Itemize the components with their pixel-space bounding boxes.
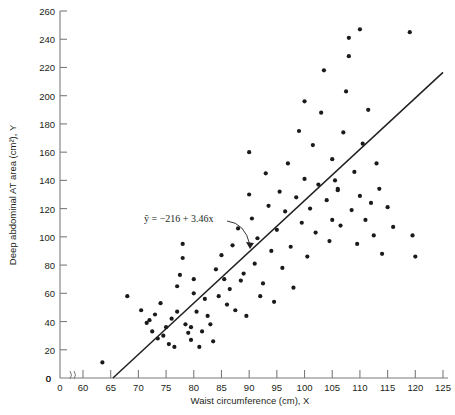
data-point — [413, 255, 417, 259]
data-point — [311, 143, 315, 147]
data-point — [358, 27, 362, 31]
data-point — [410, 233, 414, 237]
data-point — [217, 294, 221, 298]
data-point — [333, 178, 337, 182]
x-tick-label: 95 — [272, 382, 283, 393]
data-point — [172, 345, 176, 349]
data-point — [341, 130, 345, 134]
data-point — [147, 318, 151, 322]
data-point — [253, 262, 257, 266]
data-point — [228, 287, 232, 291]
data-point — [372, 233, 376, 237]
data-point — [247, 192, 251, 196]
data-point — [291, 286, 295, 290]
data-point — [280, 266, 284, 270]
data-point — [286, 161, 290, 165]
data-point — [100, 360, 104, 364]
data-point — [338, 223, 342, 227]
data-point — [355, 242, 359, 246]
data-point — [175, 284, 179, 288]
y-tick-label: 80 — [44, 260, 55, 271]
data-point — [302, 177, 306, 181]
data-point — [153, 312, 157, 316]
data-point — [255, 236, 259, 240]
data-point — [194, 310, 198, 314]
data-point — [322, 68, 326, 72]
data-point — [139, 308, 143, 312]
data-point — [175, 310, 179, 314]
data-point — [325, 198, 329, 202]
data-point — [189, 338, 193, 342]
data-point — [330, 157, 334, 161]
data-point — [150, 329, 154, 333]
data-point — [289, 245, 293, 249]
data-point — [203, 297, 207, 301]
y-tick-label: 200 — [39, 91, 55, 102]
plot-canvas: 020406080100120140160180200220240260 060… — [0, 0, 455, 415]
data-point — [269, 249, 273, 253]
x-tick-label: 115 — [380, 382, 395, 393]
data-point — [347, 36, 351, 40]
data-point — [344, 89, 348, 93]
data-point — [192, 291, 196, 295]
data-point — [222, 277, 226, 281]
data-point — [264, 171, 268, 175]
y-tick-label: 160 — [39, 147, 55, 158]
x-axis-ticks: 06065707580859095100105110115120125 — [57, 370, 451, 393]
data-point — [189, 325, 193, 329]
data-point — [319, 111, 323, 115]
data-point — [197, 345, 201, 349]
y-tick-label: 240 — [39, 34, 55, 45]
data-point — [377, 187, 381, 191]
data-point — [294, 195, 298, 199]
data-point — [336, 187, 340, 191]
y-tick-label: 20 — [44, 345, 55, 356]
data-point — [242, 271, 246, 275]
data-point — [261, 281, 265, 285]
data-point — [214, 267, 218, 271]
x-tick-label: 90 — [244, 382, 255, 393]
y-axis-ticks: 020406080100120140160180200220240260 — [39, 6, 67, 384]
y-tick-label: 220 — [39, 62, 55, 73]
y-tick-label: 40 — [44, 317, 55, 328]
regression-equation-label: ŷ = −216 + 3.46x — [144, 213, 213, 224]
data-point — [366, 108, 370, 112]
data-point — [211, 339, 215, 343]
data-point — [374, 161, 378, 165]
data-point — [230, 243, 234, 247]
data-point — [314, 231, 318, 235]
data-point — [247, 150, 251, 154]
y-axis-origin-label: 0 — [46, 373, 51, 384]
data-point — [125, 294, 129, 298]
x-tick-label: 60 — [78, 382, 89, 393]
data-point — [272, 300, 276, 304]
data-point — [239, 279, 243, 283]
x-tick-label: 85 — [216, 382, 227, 393]
y-tick-label: 180 — [39, 119, 55, 130]
data-point — [297, 129, 301, 133]
data-point — [347, 54, 351, 58]
x-tick-label: 80 — [188, 382, 199, 393]
data-point — [236, 226, 240, 230]
y-tick-label: 120 — [39, 204, 55, 215]
data-point — [167, 342, 171, 346]
y-tick-label: 140 — [39, 175, 55, 186]
data-point — [408, 30, 412, 34]
data-point — [219, 253, 223, 257]
y-tick-label: 100 — [39, 232, 55, 243]
scatter-plot-figure: 020406080100120140160180200220240260 060… — [0, 0, 455, 415]
x-tick-label: 75 — [161, 382, 172, 393]
x-tick-label: 70 — [133, 382, 144, 393]
data-point — [225, 303, 229, 307]
data-point — [161, 334, 165, 338]
data-point — [170, 317, 174, 321]
data-point — [278, 190, 282, 194]
data-point — [369, 201, 373, 205]
data-point — [181, 256, 185, 260]
data-point — [391, 225, 395, 229]
x-axis-title: Waist circumference (cm), X — [191, 395, 311, 406]
data-point — [186, 331, 190, 335]
y-tick-label: 60 — [44, 288, 55, 299]
x-tick-label: 110 — [352, 382, 367, 393]
data-point — [178, 273, 182, 277]
